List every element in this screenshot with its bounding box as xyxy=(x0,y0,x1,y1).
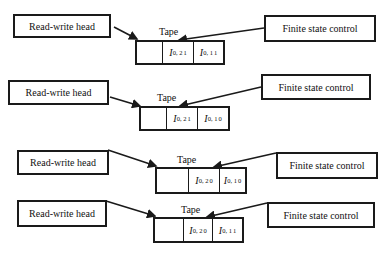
tape-label: Tape xyxy=(177,154,196,165)
finite-state-control-box: Finite state control xyxy=(264,15,376,42)
tape-cell: I0, 10 xyxy=(198,108,228,129)
tape-cell-blank xyxy=(141,108,167,129)
tape-cell: I0, 11 xyxy=(194,42,223,63)
tape-cell: I0, 10 xyxy=(220,169,245,192)
read-write-head-box: Read-write head xyxy=(17,150,109,175)
finite-state-control-box: Finite state control xyxy=(276,152,378,179)
tape-cell: I0, 11 xyxy=(213,219,242,241)
tape-cell: I0, 20 xyxy=(189,169,220,192)
tape-cell-blank xyxy=(137,42,163,63)
finite-state-control-box: Finite state control xyxy=(261,74,371,100)
finite-state-control-box: Finite state control xyxy=(267,202,375,228)
read-write-head-box: Read-write head xyxy=(13,14,111,38)
tape: I0, 20 I0, 10 xyxy=(155,167,247,194)
tape: I0, 21 I0, 10 xyxy=(139,106,230,131)
tape: I0, 21 I0, 11 xyxy=(135,40,225,65)
tape-cell-blank xyxy=(157,169,189,192)
tape-cell: I0, 21 xyxy=(167,108,198,129)
tape-label: Tape xyxy=(159,26,178,37)
tape-label: Tape xyxy=(181,204,200,215)
read-write-head-box: Read-write head xyxy=(8,80,109,105)
read-write-head-box: Read-write head xyxy=(17,200,107,227)
tape-label: Tape xyxy=(157,92,176,103)
tape: I0, 20 I0, 11 xyxy=(153,217,244,243)
tape-cell: I0, 21 xyxy=(163,42,194,63)
tape-cell-blank xyxy=(155,219,184,241)
tape-cell: I0, 20 xyxy=(184,219,213,241)
